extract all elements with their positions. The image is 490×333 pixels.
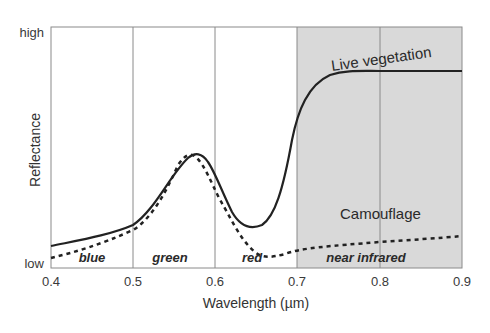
x-tick-0-7: 0.7 (288, 274, 306, 289)
x-tick-0-6: 0.6 (206, 274, 224, 289)
x-tick-0-4: 0.4 (42, 274, 60, 289)
x-axis-title: Wavelength (µm) (203, 295, 309, 311)
x-tick-0-8: 0.8 (371, 274, 389, 289)
band-label-red: red (242, 250, 263, 265)
x-tick-0-5: 0.5 (124, 274, 142, 289)
reflectance-chart: Live vegetation Camouflage blue green re… (0, 0, 490, 333)
y-label-high: high (19, 25, 44, 40)
y-label-low: low (24, 256, 44, 271)
band-label-green: green (151, 250, 187, 265)
x-tick-0-9: 0.9 (453, 274, 471, 289)
y-axis-title: Reflectance (27, 113, 43, 187)
band-label-blue: blue (79, 250, 106, 265)
camouflage-label: Camouflage (340, 205, 421, 222)
band-label-near-infrared: near infrared (326, 250, 407, 265)
